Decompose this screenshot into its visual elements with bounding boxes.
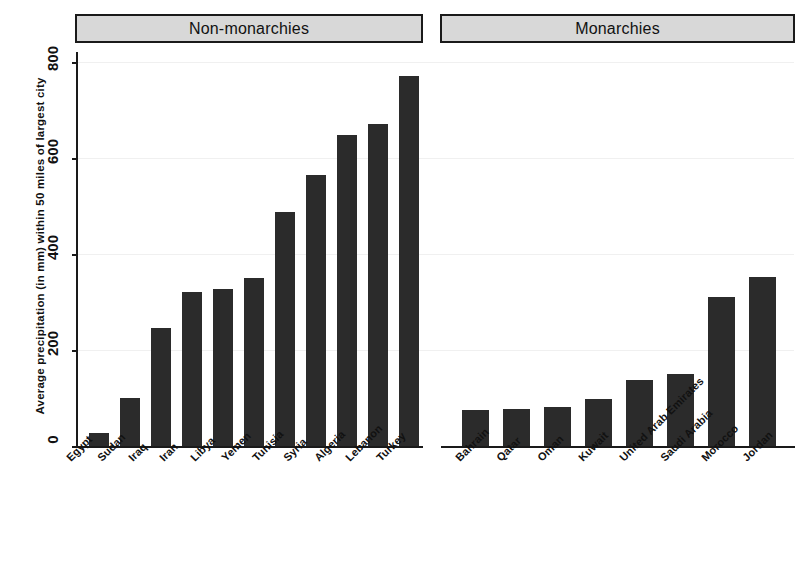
bar-tunisia: [275, 212, 295, 446]
bar-jordan: [749, 277, 776, 446]
bar-turkey: [399, 76, 419, 446]
panel-header-label-non-monarchies: Non-monarchies: [189, 20, 309, 38]
chart-figure: Average precipitation (in mm) within 50 …: [0, 0, 808, 579]
bar-syria: [306, 175, 326, 446]
bar-iran: [182, 292, 202, 446]
panel-header-non-monarchies: Non-monarchies: [75, 14, 423, 43]
y-tick-label-400: 400: [44, 226, 61, 270]
bar-yemen: [244, 278, 264, 446]
y-tick-label-600: 600: [44, 130, 61, 174]
bar-lebanon: [368, 124, 388, 446]
y-tick-label-0: 0: [44, 418, 61, 462]
plot-area-monarchies: [441, 52, 795, 446]
panel-header-monarchies: Monarchies: [440, 14, 795, 43]
y-tick-label-200: 200: [44, 322, 61, 366]
bar-iraq: [151, 328, 171, 446]
bar-libya: [213, 289, 233, 446]
y-tick-label-800: 800: [44, 37, 61, 81]
plot-area-non-monarchies: [78, 52, 423, 446]
panel-header-label-monarchies: Monarchies: [575, 20, 660, 38]
bar-algeria: [337, 135, 357, 446]
x-axis-line-non-monarchies: [76, 446, 423, 448]
x-axis-line-monarchies: [441, 446, 795, 448]
